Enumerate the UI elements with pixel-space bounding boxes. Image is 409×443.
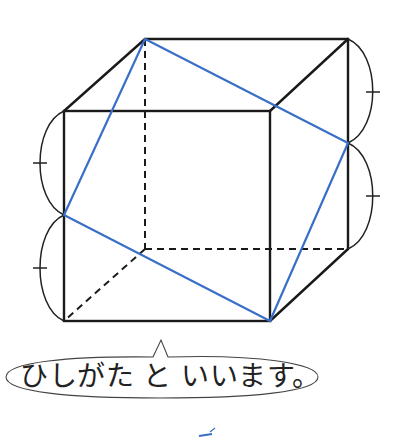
speech-bubble-text: ひしがた と いいます。 — [20, 358, 310, 396]
hidden-edges — [64, 39, 348, 321]
small-blue-mark — [199, 434, 212, 436]
equal-length-marks — [33, 39, 380, 321]
visible-edges — [64, 39, 348, 321]
rhombus-shape — [64, 39, 348, 321]
